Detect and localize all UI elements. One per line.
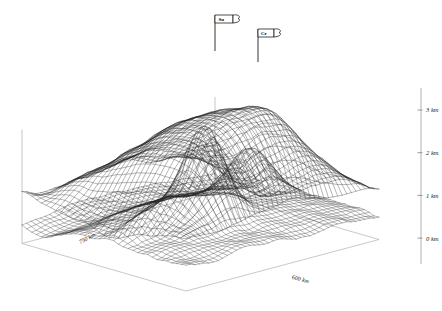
flag-pennant-tail-su [233, 15, 240, 23]
z-axis-tick-label: 2 km [426, 149, 439, 156]
z-axis-tick-label: 1 km [426, 192, 439, 199]
flag-label-su: Su [219, 17, 225, 22]
flag-pennant-tail-cr [274, 29, 281, 37]
flag-label-cr: Cr [261, 31, 268, 36]
z-axis-tick-label: 3 km [425, 106, 439, 113]
z-axis-tick-label: 0 km [426, 235, 439, 242]
plot-canvas: 3 km2 km1 km0 km 750 km 600 km Su Cr [0, 0, 442, 311]
surface-plot-figure: 3 km2 km1 km0 km 750 km 600 km Su Cr [0, 0, 442, 311]
